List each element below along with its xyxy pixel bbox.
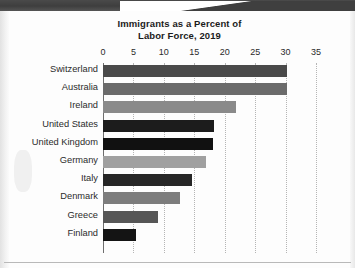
- scan-artifact-top-band: [0, 0, 355, 11]
- bar-row: Switzerland: [9, 65, 350, 77]
- bar-rows: SwitzerlandAustraliaIrelandUnited States…: [9, 63, 350, 253]
- category-label-greece: Greece: [0, 210, 98, 220]
- x-tick-label-0: 0: [100, 47, 105, 57]
- category-label-united-states: United States: [0, 119, 98, 129]
- bar-greece: [103, 211, 158, 223]
- chart-title-line-2: Labor Force, 2019: [9, 30, 350, 42]
- scanned-page: Immigrants as a Percent of Labor Force, …: [0, 0, 355, 268]
- bar-row: Ireland: [9, 101, 350, 113]
- category-label-united-kingdom: United Kingdom: [0, 137, 98, 147]
- x-tick-label-5: 5: [131, 47, 136, 57]
- category-label-finland: Finland: [0, 228, 98, 238]
- bar-row: Germany: [9, 156, 350, 168]
- bar-denmark: [103, 192, 180, 204]
- category-label-australia: Australia: [0, 82, 98, 92]
- bar-row: Italy: [9, 174, 350, 186]
- scan-artifact-right-edge: [350, 11, 355, 268]
- bar-row: Australia: [9, 83, 350, 95]
- chart-title: Immigrants as a Percent of Labor Force, …: [9, 18, 350, 41]
- bar-ireland: [103, 101, 236, 113]
- category-label-italy: Italy: [0, 173, 98, 183]
- chart-title-line-1: Immigrants as a Percent of: [9, 18, 350, 30]
- plot-area: 05101520253035 SwitzerlandAustraliaIrela…: [9, 47, 350, 253]
- bar-germany: [103, 156, 206, 168]
- bar-row: United Kingdom: [9, 138, 350, 150]
- category-label-switzerland: Switzerland: [0, 64, 98, 74]
- bar-united-kingdom: [103, 138, 213, 150]
- category-label-germany: Germany: [0, 155, 98, 165]
- bar-row: Denmark: [9, 192, 350, 204]
- x-tick-label-15: 15: [189, 47, 199, 57]
- bar-row: Greece: [9, 211, 350, 223]
- bar-united-states: [103, 120, 214, 132]
- x-axis-tick-labels: 05101520253035: [9, 47, 350, 61]
- x-tick-label-30: 30: [281, 47, 291, 57]
- category-label-denmark: Denmark: [0, 191, 98, 201]
- bar-switzerland: [103, 65, 287, 77]
- x-tick-label-20: 20: [220, 47, 230, 57]
- x-tick-label-25: 25: [250, 47, 260, 57]
- bar-australia: [103, 83, 287, 95]
- x-tick-label-35: 35: [311, 47, 321, 57]
- bar-chart: Immigrants as a Percent of Labor Force, …: [9, 13, 350, 261]
- bar-row: United States: [9, 120, 350, 132]
- bar-finland: [103, 229, 136, 241]
- category-label-ireland: Ireland: [0, 100, 98, 110]
- x-tick-label-10: 10: [159, 47, 169, 57]
- page-bottom-rule: [4, 262, 351, 263]
- bar-italy: [103, 174, 192, 186]
- bar-row: Finland: [9, 229, 350, 241]
